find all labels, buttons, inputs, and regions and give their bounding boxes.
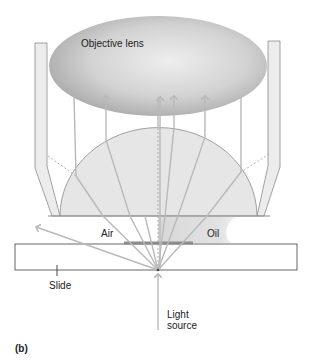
objective-lens-label: Objective lens <box>81 38 144 49</box>
air-label: Air <box>101 228 114 239</box>
slide-label: Slide <box>49 280 72 291</box>
oil-immersion-diagram: Objective lens Air Oil Slide Light sourc… <box>0 0 309 362</box>
light-source-label-line1: Light <box>167 309 189 320</box>
light-source-label-line2: source <box>167 320 197 331</box>
front-lens-hemisphere <box>60 128 257 216</box>
oil-label: Oil <box>207 228 219 239</box>
focus-point <box>157 269 160 272</box>
panel-label: (b) <box>15 343 28 354</box>
